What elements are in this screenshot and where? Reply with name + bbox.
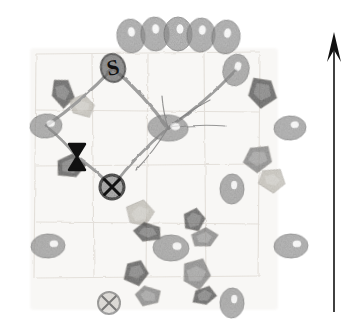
circled-x-marker [98,292,120,314]
figure-root: S [0,0,358,332]
cobble-body [219,174,244,205]
figure-svg: S [0,0,358,332]
figure-canvas: S [0,0,358,332]
cobble-node [219,174,244,205]
cobble-highlight [177,24,184,34]
circled-x-marker [100,175,124,199]
